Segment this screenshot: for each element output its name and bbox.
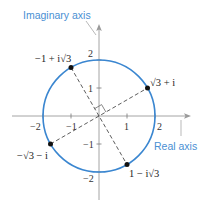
axes: −2 −1 1 2 2 1 −1 −2 [12, 24, 191, 200]
point-neg1-plus-i-sqrt3 [69, 65, 74, 70]
imaginary-axis-label: Imaginary axis [23, 9, 91, 21]
complex-plane-diagram: −2 −1 1 2 2 1 −1 −2 Imaginary axis Real … [0, 0, 207, 204]
y-tick-label: −2 [83, 173, 94, 184]
point-neg-sqrt3-minus-i [48, 142, 53, 147]
y-tick-label: 1 [88, 83, 93, 94]
label-neg-sqrt3-minus-i: −√3 − i [17, 150, 48, 161]
y-tick-label: −1 [83, 139, 94, 150]
label-neg1-plus-i-sqrt3: −1 + i√3 [35, 53, 71, 64]
imaginary-axis-leader-line [86, 21, 96, 35]
point-1-minus-i-sqrt3 [125, 162, 130, 167]
label-sqrt3-plus-i: √3 + i [150, 77, 175, 88]
x-tick-label: −1 [66, 121, 77, 132]
right-angle-marker [95, 105, 106, 112]
x-tick-label: 1 [124, 121, 129, 132]
label-1-minus-i-sqrt3: 1 − i√3 [129, 168, 159, 179]
x-tick-label: −2 [30, 121, 41, 132]
real-axis-label: Real axis [154, 140, 197, 152]
x-tick-label: 2 [157, 121, 162, 132]
y-tick-label: 2 [88, 48, 93, 59]
